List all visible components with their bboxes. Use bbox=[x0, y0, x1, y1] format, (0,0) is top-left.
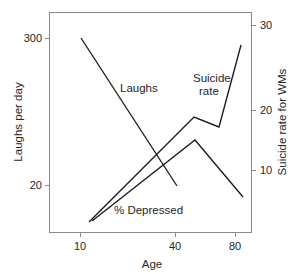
chart-container: 300 20 30 20 10 10 40 80 Laughs per day … bbox=[0, 0, 299, 274]
x-axis-title: Age bbox=[142, 258, 162, 270]
right-tick-label-10: 10 bbox=[260, 164, 272, 176]
bottom-tick-label-10: 10 bbox=[74, 240, 86, 252]
series-annotation-suicide-line1: Suicide bbox=[193, 72, 231, 84]
right-tick-label-20: 20 bbox=[260, 104, 272, 116]
bottom-tick-label-80: 80 bbox=[229, 240, 241, 252]
y-axis-title: Laughs per day bbox=[12, 82, 24, 162]
chart-canvas: 300 20 30 20 10 10 40 80 Laughs per day … bbox=[0, 0, 299, 274]
bottom-tick-label-40: 40 bbox=[169, 240, 181, 252]
y2-axis-title: Suicide rate for WMs bbox=[276, 68, 288, 175]
left-tick-label-300: 300 bbox=[24, 32, 42, 44]
series-annotation-laughs: Laughs bbox=[120, 82, 158, 94]
right-tick-label-30: 30 bbox=[260, 19, 272, 31]
plot-frame bbox=[50, 13, 252, 233]
series-annotation-suicide-line2: rate bbox=[199, 85, 219, 97]
series-line-laughs bbox=[81, 38, 177, 186]
series-annotation-depressed: % Depressed bbox=[114, 204, 183, 216]
left-tick-label-20: 20 bbox=[30, 179, 42, 191]
